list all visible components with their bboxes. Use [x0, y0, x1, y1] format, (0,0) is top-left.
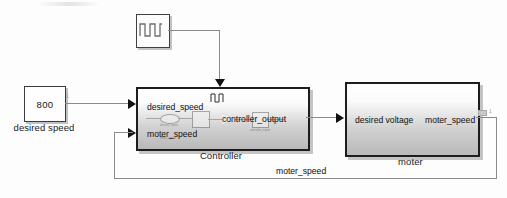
pulse-generator-icon [137, 15, 165, 43]
preview-wire-2 [178, 118, 192, 119]
moter-output-port-tick: 1 [489, 108, 492, 114]
simulink-diagram-canvas: 800 1 desired speed desired_speed moter_… [0, 0, 507, 198]
constant-block-800[interactable]: 800 [24, 86, 66, 122]
arrow-controller-in-desired-speed [128, 99, 136, 109]
preview-wire-3 [208, 119, 222, 120]
constant-value: 800 [37, 99, 54, 110]
controller-outport-label-controller-output: controller_output [222, 114, 286, 124]
preview-label-controller-output: controller_output [250, 128, 270, 132]
moter-outport-label-moter-speed: moter_speed [425, 115, 475, 125]
controller-subsystem-block[interactable]: desired_speed moter_speed controller_out… [136, 87, 310, 151]
wire-feedback-into-controller [114, 132, 133, 133]
wire-feedback-bottom [114, 178, 497, 179]
scan-artifact [38, 2, 100, 6]
wire-pulse-vertical [219, 30, 220, 80]
arrow-controller-in-pulse [215, 79, 225, 87]
moter-subsystem-block[interactable]: desired voltage moter_speed [345, 82, 480, 157]
controller-block-label: Controller [136, 150, 306, 161]
wire-feedback-out [476, 117, 497, 118]
moter-inport-label-desired-voltage: desired voltage [355, 115, 413, 125]
wire-feedback-down [496, 117, 497, 179]
wire-controller-to-moter [306, 117, 337, 118]
controller-inport-label-moter-speed: moter_speed [147, 129, 197, 139]
preview-label-desired-speed: desired_speed [160, 123, 178, 127]
controller-pulse-inport-icon [210, 91, 224, 103]
wire-constant-to-controller [65, 103, 133, 104]
wire-feedback-up [114, 132, 115, 179]
constant-block-label: desired speed [4, 122, 84, 133]
constant-output-port-tick: 1 [66, 93, 69, 99]
moter-output-port-marker [478, 110, 487, 116]
controller-inport-label-desired-speed: desired_speed [147, 102, 203, 112]
wire-pulse-horizontal [168, 30, 220, 31]
moter-block-label: moter [345, 156, 476, 167]
preview-wire-1 [146, 118, 161, 119]
pulse-generator-block[interactable] [136, 14, 170, 48]
feedback-signal-label: moter_speed [276, 166, 326, 176]
arrow-moter-in-desired-voltage [336, 113, 344, 123]
